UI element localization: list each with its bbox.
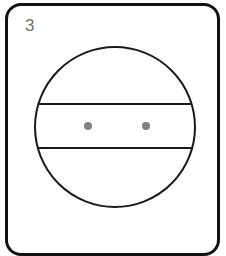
main-circle (35, 47, 195, 207)
circle-group (35, 47, 195, 207)
right-dot (142, 122, 150, 130)
left-dot (84, 122, 92, 130)
